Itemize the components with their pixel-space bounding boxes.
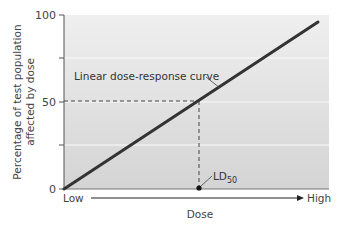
ytick-label-0: 0: [49, 183, 56, 196]
y-axis-label-line2: affected by dose: [24, 58, 36, 146]
dose-response-chart: 100 50 0 Percentage of test population a…: [0, 0, 338, 226]
x-axis-low-label: Low: [63, 192, 84, 204]
curve-label: Linear dose-response curve: [74, 70, 219, 82]
ld50-point: [196, 185, 201, 190]
y-axis-label-line1: Percentage of test population: [11, 24, 23, 179]
ytick-label-50: 50: [42, 96, 56, 109]
ytick-label-100: 100: [35, 9, 56, 22]
ld50-subscript: 50: [227, 176, 237, 185]
x-axis-label: Dose: [187, 208, 213, 220]
arrowhead-icon: [297, 195, 304, 201]
x-axis-high-label: High: [307, 192, 331, 204]
